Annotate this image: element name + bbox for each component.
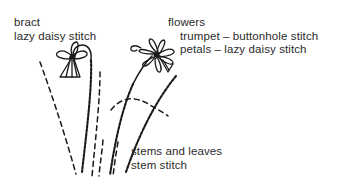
label-stems: stems and leaves stem stitch	[131, 145, 222, 172]
label-bract-line2: lazy daisy stitch	[14, 30, 96, 44]
label-bract-line1: bract	[14, 16, 96, 30]
left-outer-leaf	[40, 62, 76, 174]
right-flower-center	[154, 52, 160, 57]
label-stems-line1: stems and leaves	[131, 145, 222, 159]
label-flowers-line1: flowers	[168, 16, 318, 30]
label-flowers-trumpet: trumpet – buttonhole stitch	[168, 30, 318, 44]
arching-leaf	[111, 99, 168, 116]
label-stems-line2: stem stitch	[131, 159, 222, 173]
label-flowers: flowers trumpet – buttonhole stitch peta…	[168, 16, 318, 57]
center-leaf	[92, 72, 100, 176]
short-base-leaf	[99, 140, 103, 176]
label-bract: bract lazy daisy stitch	[14, 16, 96, 43]
figure-canvas: bract lazy daisy stitch flowers trumpet …	[0, 0, 350, 180]
left-flower-center	[69, 54, 75, 59]
left-flower-trumpet	[60, 59, 80, 77]
label-flowers-petals: petals – lazy daisy stitch	[168, 43, 318, 57]
